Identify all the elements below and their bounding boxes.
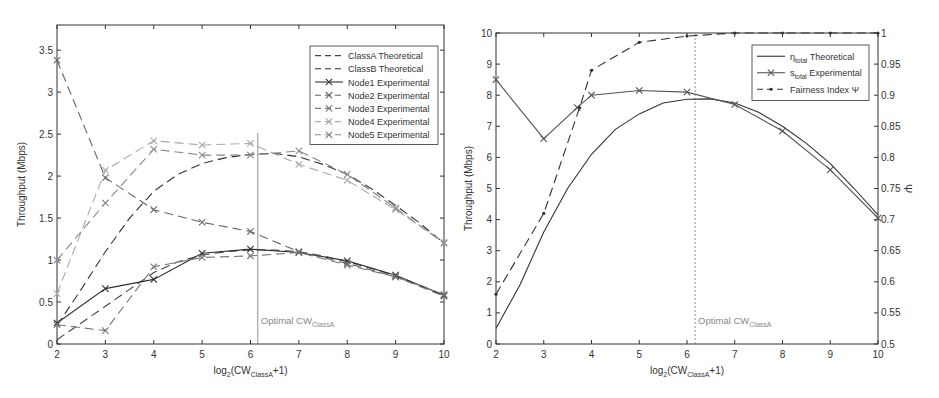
series-classa-theoretical xyxy=(57,250,444,340)
dot-marker-icon xyxy=(876,31,879,34)
x-tick-label: 8 xyxy=(780,349,786,360)
y-right-tick-label: 0.5 xyxy=(881,339,895,350)
y-tick-label: 2 xyxy=(47,171,53,182)
x-marker-icon xyxy=(296,148,302,154)
legend: ηtotal Theoreticalstotal ExperimentalFai… xyxy=(752,45,869,101)
x-tick-label: 5 xyxy=(636,349,642,360)
y-tick-label: 8 xyxy=(486,90,492,101)
x-marker-icon xyxy=(344,177,350,183)
legend-label: Node5 Experimental xyxy=(348,130,430,140)
y-right-tick-label: 0.7 xyxy=(881,214,895,225)
x-tick-label: 9 xyxy=(827,349,833,360)
dot-marker-icon xyxy=(685,35,688,38)
dot-marker-icon xyxy=(769,88,772,91)
series-node3-experimental xyxy=(54,249,447,333)
x-marker-icon xyxy=(344,171,350,177)
dot-marker-icon xyxy=(829,31,832,34)
y-tick-label: 1 xyxy=(486,307,492,318)
x-tick-label: 5 xyxy=(199,349,205,360)
series-line xyxy=(57,149,444,260)
legend-label: Node1 Experimental xyxy=(348,78,430,88)
y-tick-label: 2.5 xyxy=(39,129,53,140)
y-tick-label: 0.5 xyxy=(39,297,53,308)
x-tick-label: 2 xyxy=(493,349,499,360)
x-marker-icon xyxy=(541,136,547,142)
legend-label: Fairness Index Ψ xyxy=(790,85,859,95)
dot-marker-icon xyxy=(590,69,593,72)
x-marker-icon xyxy=(151,206,157,212)
dot-marker-icon xyxy=(638,41,641,44)
series--total-theoretical xyxy=(496,99,878,329)
x-tick-label: 4 xyxy=(589,349,595,360)
y-right-axis-label: Ψ xyxy=(902,184,914,193)
total-throughput-fairness-chart: 23456789100123456789100.50.550.60.650.70… xyxy=(463,28,914,379)
x-tick-label: 10 xyxy=(438,349,450,360)
y-right-tick-label: 0.95 xyxy=(881,59,901,70)
x-tick-label: 3 xyxy=(541,349,547,360)
x-marker-icon xyxy=(779,128,785,134)
y-right-tick-label: 0.85 xyxy=(881,121,901,132)
y-tick-label: 9 xyxy=(486,59,492,70)
x-marker-icon xyxy=(827,167,833,173)
y-tick-label: 7 xyxy=(486,121,492,132)
dot-marker-icon xyxy=(542,212,545,215)
x-marker-icon xyxy=(151,138,157,144)
y-tick-label: 1 xyxy=(47,255,53,266)
y-tick-label: 2 xyxy=(486,276,492,287)
x-axis-label: log2(CWClassA+1) xyxy=(650,365,724,378)
series-line xyxy=(57,253,444,331)
x-tick-label: 2 xyxy=(54,349,60,360)
dot-marker-icon xyxy=(494,293,497,296)
x-tick-label: 4 xyxy=(151,349,157,360)
series-line xyxy=(57,250,444,340)
y-axis-label: Throughput (Mbps) xyxy=(16,142,27,227)
y-right-tick-label: 0.55 xyxy=(881,307,901,318)
y-right-tick-label: 0.9 xyxy=(881,90,895,101)
series-line xyxy=(57,249,444,323)
y-tick-label: 0 xyxy=(486,339,492,350)
x-marker-icon xyxy=(296,161,302,167)
series-line xyxy=(57,141,444,294)
y-tick-label: 1.5 xyxy=(39,213,53,224)
legend-label: ClassA Theoretical xyxy=(348,51,423,61)
y-tick-label: 5 xyxy=(486,183,492,194)
y-tick-label: 3 xyxy=(486,245,492,256)
y-tick-label: 3 xyxy=(47,87,53,98)
x-tick-label: 7 xyxy=(296,349,302,360)
y-right-tick-label: 0.8 xyxy=(881,152,895,163)
x-tick-label: 7 xyxy=(732,349,738,360)
x-tick-label: 6 xyxy=(248,349,254,360)
x-marker-icon xyxy=(732,101,738,107)
dot-marker-icon xyxy=(781,31,784,34)
x-tick-label: 6 xyxy=(684,349,690,360)
y-axis-label: Throughput (Mbps) xyxy=(463,146,474,231)
x-tick-label: 10 xyxy=(872,349,884,360)
y-right-tick-label: 0.6 xyxy=(881,276,895,287)
legend-label: Node2 Experimental xyxy=(348,91,430,101)
throughput-per-node-chart: 234567891000.511.522.533.5Throughput (Mb… xyxy=(16,25,450,378)
x-tick-label: 8 xyxy=(344,349,350,360)
y-right-tick-label: 0.65 xyxy=(881,245,901,256)
dot-marker-icon xyxy=(733,31,736,34)
y-right-tick-label: 1 xyxy=(881,28,887,39)
x-tick-label: 9 xyxy=(393,349,399,360)
series-node1-experimental xyxy=(54,246,447,326)
y-tick-label: 3.5 xyxy=(39,45,53,56)
legend-label: ClassB Theoretical xyxy=(348,64,423,74)
x-axis-label: log2(CWClassA+1) xyxy=(213,365,287,378)
legend-label: Node4 Experimental xyxy=(348,117,430,127)
y-right-tick-label: 0.75 xyxy=(881,183,901,194)
optimal-cw-annotation: Optimal CWClassA xyxy=(698,315,772,328)
series-line xyxy=(496,99,878,329)
x-marker-icon xyxy=(102,200,108,206)
legend: ClassA TheoreticalClassB TheoreticalNode… xyxy=(310,46,438,144)
y-tick-label: 4 xyxy=(486,214,492,225)
x-marker-icon xyxy=(102,167,108,173)
figure: 234567891000.511.522.533.5Throughput (Mb… xyxy=(0,0,939,398)
x-tick-label: 3 xyxy=(103,349,109,360)
y-tick-label: 6 xyxy=(486,152,492,163)
legend-label: Node3 Experimental xyxy=(348,104,430,114)
optimal-cw-annotation: Optimal CWClassA xyxy=(261,315,335,328)
y-tick-label: 0 xyxy=(47,339,53,350)
y-tick-label: 10 xyxy=(481,28,493,39)
